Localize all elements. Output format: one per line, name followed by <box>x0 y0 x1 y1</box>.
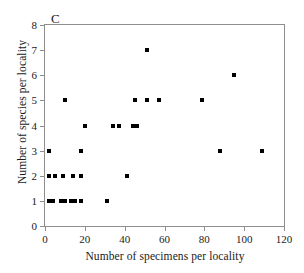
data-point <box>71 174 75 178</box>
data-point <box>157 98 161 102</box>
data-point <box>105 199 109 203</box>
x-tick: 100 <box>244 226 245 231</box>
data-point <box>79 199 83 203</box>
x-tick: 120 <box>284 226 285 231</box>
data-point <box>111 124 115 128</box>
data-point <box>145 98 149 102</box>
x-tick-label: 20 <box>65 233 105 245</box>
y-tick: 6 <box>40 75 45 76</box>
x-tick: 20 <box>85 226 86 231</box>
y-tick: 3 <box>40 151 45 152</box>
x-axis-title: Number of specimens per locality <box>40 250 290 262</box>
y-tick-label: 2 <box>32 168 38 184</box>
data-point <box>79 149 83 153</box>
y-tick-label: 5 <box>32 92 38 108</box>
y-tick: 5 <box>40 100 45 101</box>
data-point <box>200 98 204 102</box>
x-tick: 40 <box>125 226 126 231</box>
data-point <box>145 48 149 52</box>
y-tick-label: 1 <box>32 193 38 209</box>
data-point <box>79 174 83 178</box>
plot-area: C 012345678 020406080100120 <box>44 24 285 227</box>
x-tick-label: 100 <box>224 233 264 245</box>
y-tick-label: 6 <box>32 67 38 83</box>
y-tick: 8 <box>40 25 45 26</box>
y-tick: 2 <box>40 176 45 177</box>
data-point <box>135 124 139 128</box>
y-tick-label: 3 <box>32 143 38 159</box>
x-tick-label: 60 <box>145 233 185 245</box>
data-point <box>47 149 51 153</box>
y-axis-title: Number of species per locality <box>14 2 30 222</box>
data-point <box>51 199 55 203</box>
data-point <box>232 73 236 77</box>
panel-label: C <box>51 11 60 27</box>
data-point <box>218 149 222 153</box>
y-tick: 7 <box>40 50 45 51</box>
data-point <box>47 174 51 178</box>
data-point <box>133 98 137 102</box>
y-tick-label: 4 <box>32 118 38 134</box>
x-tick: 60 <box>165 226 166 231</box>
data-point <box>117 124 121 128</box>
x-tick: 80 <box>204 226 205 231</box>
x-tick-label: 0 <box>25 233 65 245</box>
data-point <box>125 174 129 178</box>
scatter-plot-figure: Number of species per locality C 0123456… <box>0 0 304 273</box>
data-point <box>61 174 65 178</box>
x-tick: 0 <box>45 226 46 231</box>
y-tick-label: 8 <box>32 17 38 33</box>
data-point <box>53 174 57 178</box>
y-tick: 4 <box>40 126 45 127</box>
x-tick-label: 120 <box>264 233 304 245</box>
data-point <box>73 199 77 203</box>
data-point <box>260 149 264 153</box>
x-tick-label: 80 <box>184 233 224 245</box>
data-point <box>63 98 67 102</box>
x-tick-label: 40 <box>105 233 145 245</box>
data-point <box>63 199 67 203</box>
data-point <box>83 124 87 128</box>
y-tick-label: 0 <box>32 218 38 234</box>
y-tick: 1 <box>40 201 45 202</box>
y-tick-label: 7 <box>32 42 38 58</box>
